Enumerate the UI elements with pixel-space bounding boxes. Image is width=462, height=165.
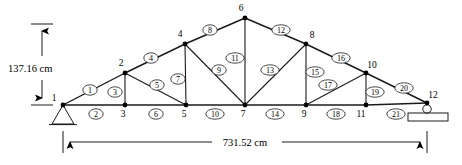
joint-label-7: 7 — [241, 109, 246, 119]
member-label-text-2: 2 — [94, 110, 98, 119]
joint-label-10: 10 — [367, 60, 377, 70]
member-label-text-12: 12 — [277, 26, 285, 35]
member-label-text-3: 3 — [113, 88, 117, 97]
member-label-text-15: 15 — [311, 68, 319, 77]
member-label-text-6: 6 — [154, 110, 158, 119]
member-label-text-16: 16 — [337, 54, 345, 63]
truss-member-17 — [306, 73, 366, 105]
pin-support — [49, 105, 77, 125]
member-label-text-10: 10 — [211, 110, 219, 119]
span-dimension: 731.52 cm — [63, 131, 427, 153]
joint-label-5: 5 — [182, 109, 187, 119]
joint-dot-6 — [243, 16, 248, 21]
joint-label-12: 12 — [428, 90, 438, 100]
joint-dot-2 — [123, 71, 128, 76]
height-dimension-label: 137.16 cm — [8, 63, 52, 74]
joint-label-9: 9 — [302, 109, 307, 119]
joint-dot-1 — [61, 103, 66, 108]
joint-dot-4 — [183, 42, 188, 47]
member-label-text-9: 9 — [217, 66, 221, 75]
member-label-text-21: 21 — [392, 110, 400, 119]
joint-dot-11 — [364, 103, 369, 108]
joint-label-4: 4 — [178, 29, 183, 39]
joint-label-1: 1 — [52, 93, 57, 103]
joint-dot-5 — [184, 103, 189, 108]
member-label-text-7: 7 — [176, 75, 180, 84]
roller-support — [408, 105, 448, 121]
joint-dot-7 — [243, 103, 248, 108]
joint-label-2: 2 — [119, 58, 124, 68]
joint-dot-3 — [123, 103, 128, 108]
truss-diagram-figure: 123456789101112 123456789101112131415161… — [0, 0, 462, 165]
height-dimension: 137.16 cm — [8, 24, 53, 105]
truss-diagram-canvas: 123456789101112 123456789101112131415161… — [0, 0, 462, 165]
truss-member-21 — [366, 103, 427, 105]
member-label-text-18: 18 — [332, 110, 340, 119]
member-label-text-11: 11 — [231, 54, 239, 63]
member-label-text-14: 14 — [271, 110, 279, 119]
joint-label-3: 3 — [121, 109, 126, 119]
joint-label-6: 6 — [239, 3, 244, 13]
member-label-text-17: 17 — [324, 81, 332, 90]
member-label-text-20: 20 — [400, 84, 408, 93]
joint-dot-12 — [425, 101, 430, 106]
joint-label-8: 8 — [310, 30, 315, 40]
member-label-text-5: 5 — [155, 81, 159, 90]
joint-dot-10 — [364, 71, 369, 76]
joint-label-11: 11 — [356, 109, 365, 119]
member-label-text-13: 13 — [266, 66, 274, 75]
span-dimension-label: 731.52 cm — [223, 137, 267, 148]
joint-dot-8 — [304, 42, 309, 47]
truss-member-7 — [185, 44, 186, 105]
joint-dot-9 — [304, 103, 309, 108]
member-label-text-19: 19 — [371, 88, 379, 97]
member-label-text-8: 8 — [208, 26, 212, 35]
member-label-text-1: 1 — [88, 86, 92, 95]
member-label-text-4: 4 — [149, 54, 153, 63]
